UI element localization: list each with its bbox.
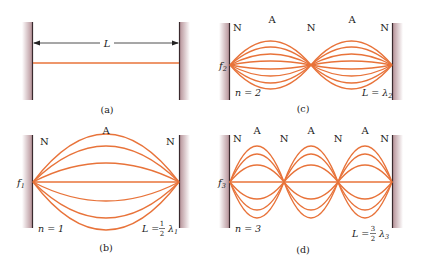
- svg-text:L =: L =: [141, 223, 159, 234]
- node-label: N: [233, 133, 242, 144]
- node-label: N: [280, 133, 289, 144]
- right-wall: [180, 22, 190, 100]
- left-wall: [22, 22, 32, 100]
- node-label: N: [380, 22, 389, 33]
- antinode-label: A: [101, 125, 110, 136]
- caption-d: (d): [296, 244, 310, 255]
- right-wall: [393, 135, 403, 228]
- relation-label: L = 1 2 λ1: [141, 220, 178, 238]
- antinode-label: A: [360, 125, 369, 136]
- caption-b: (b): [99, 242, 113, 253]
- panel-c: N N N A A f2 n = 2 L = λ2 (c): [218, 14, 403, 114]
- node-label: N: [233, 22, 242, 33]
- antinode-label: A: [306, 125, 315, 136]
- svg-text:3: 3: [371, 225, 375, 233]
- relation-label: L = 3 2 λ3: [351, 225, 389, 243]
- mode-label: n = 2: [235, 87, 261, 98]
- panel-b: N N A f1 n = 1 L = 1 2 λ1 (b): [16, 125, 190, 253]
- string-loops: [33, 134, 179, 230]
- antinode-label: A: [267, 14, 276, 25]
- svg-text:1: 1: [160, 220, 164, 228]
- node-label: N: [40, 136, 49, 147]
- right-wall: [393, 23, 403, 100]
- node-label: N: [307, 22, 316, 33]
- mode-label: n = 3: [235, 223, 261, 234]
- length-label: L: [103, 38, 111, 49]
- node-label: N: [380, 133, 389, 144]
- string-loops: [230, 146, 392, 218]
- standing-waves-diagram: L (a) N N N: [0, 0, 423, 259]
- svg-text:2: 2: [160, 230, 164, 238]
- svg-text:λ3: λ3: [378, 228, 389, 241]
- node-label: N: [166, 136, 175, 147]
- caption-c: (c): [297, 103, 310, 114]
- antinode-label: A: [252, 125, 261, 136]
- svg-text:2: 2: [371, 235, 375, 243]
- string-loops: [230, 41, 392, 89]
- caption-a: (a): [100, 104, 113, 115]
- svg-text:L =: L =: [351, 228, 369, 239]
- svg-text:λ1: λ1: [167, 223, 178, 236]
- antinode-label: A: [347, 14, 356, 25]
- panel-a: L (a): [22, 22, 190, 115]
- node-label: N: [334, 133, 343, 144]
- mode-label: n = 1: [38, 223, 64, 234]
- relation-label: L = λ2: [361, 87, 392, 100]
- right-wall: [180, 135, 190, 228]
- panel-d: N N N N A A A f3 n = 3 L = 3 2 λ3 (d): [217, 125, 403, 255]
